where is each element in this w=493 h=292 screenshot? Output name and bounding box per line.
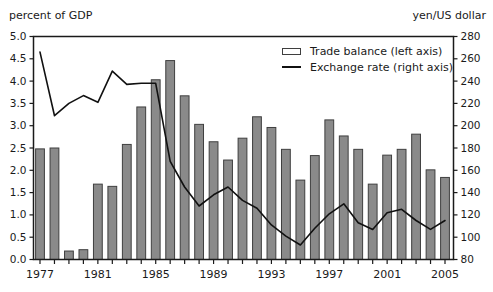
trade-balance-bar-2001 — [383, 155, 392, 259]
trade-balance-bar-1996 — [310, 156, 319, 260]
legend-row-exchange-rate: Exchange rate (right axis) — [282, 60, 453, 74]
x-axis-label-2005: 2005 — [431, 268, 459, 281]
trade-balance-bar-1998 — [339, 136, 348, 260]
right-axis-tick-label: 80 — [461, 253, 474, 265]
trade-balance-bar-1993 — [267, 127, 276, 259]
right-axis-tick-label: 160 — [461, 164, 481, 176]
right-axis-tick-label: 140 — [461, 186, 481, 198]
right-axis-tick-label: 120 — [461, 208, 481, 220]
trade-balance-bar-1981 — [93, 184, 102, 259]
trade-balance-bar-1988 — [195, 124, 204, 259]
x-axis-label-1993: 1993 — [257, 268, 285, 281]
left-axis-tick-label: 3.5 — [10, 97, 27, 109]
trade-balance-bar-1987 — [180, 96, 189, 260]
trade-balance-bar-1980 — [79, 250, 88, 260]
trade-balance-bar-1995 — [296, 180, 305, 259]
trade-balance-bar-1977 — [36, 149, 45, 260]
trade-balance-bar-1989 — [209, 142, 218, 260]
x-axis-label-1989: 1989 — [200, 268, 228, 281]
left-axis-tick-label: 2.0 — [10, 164, 27, 176]
x-axis-label-2001: 2001 — [373, 268, 401, 281]
trade-balance-bar-1978 — [50, 148, 59, 260]
chart: percent of GDP yen/US dollar 0.00.51.01.… — [0, 0, 493, 292]
legend-row-trade-balance: Trade balance (left axis) — [282, 44, 453, 58]
trade-balance-bar-2005 — [441, 177, 450, 259]
left-axis-tick-label: 4.0 — [10, 75, 27, 87]
left-axis-tick-label: 3.0 — [10, 119, 27, 131]
left-axis-tick-label: 1.5 — [10, 186, 27, 198]
x-axis-label-1981: 1981 — [84, 268, 112, 281]
trade-balance-bar-1997 — [325, 120, 334, 260]
trade-balance-bar-2003 — [412, 134, 421, 259]
x-axis-label-1977: 1977 — [26, 268, 54, 281]
trade-balance-bar-1999 — [354, 149, 363, 259]
trade-balance-bar-2000 — [368, 184, 377, 259]
trade-balance-bar-1979 — [65, 251, 74, 259]
legend: Trade balance (left axis) Exchange rate … — [282, 44, 453, 76]
trade-balance-bar-1990 — [224, 160, 233, 259]
right-axis-tick-label: 280 — [461, 30, 481, 42]
trade-balance-bar-2002 — [397, 149, 406, 259]
trade-balance-bar-1992 — [253, 117, 262, 260]
left-axis-tick-label: 0.0 — [10, 253, 27, 265]
legend-label-exchange-rate: Exchange rate (right axis) — [310, 61, 453, 74]
right-axis-tick-label: 260 — [461, 52, 481, 64]
trade-balance-bar-1994 — [281, 149, 290, 259]
right-axis-tick-label: 240 — [461, 75, 481, 87]
trade-balance-bar-1982 — [108, 186, 117, 259]
legend-label-trade-balance: Trade balance (left axis) — [310, 45, 442, 58]
left-axis-tick-label: 1.0 — [10, 208, 27, 220]
left-axis-tick-label: 4.5 — [10, 52, 27, 64]
trade-balance-bar-1985 — [151, 80, 160, 260]
right-axis-tick-label: 200 — [461, 119, 481, 131]
x-axis-label-1997: 1997 — [315, 268, 343, 281]
right-axis-tick-label: 180 — [461, 142, 481, 154]
trade-balance-bar-1991 — [238, 138, 247, 259]
x-axis-label-1985: 1985 — [142, 268, 170, 281]
trade-balance-swatch-icon — [282, 48, 301, 55]
trade-balance-bar-1983 — [122, 144, 131, 259]
exchange-rate-swatch-icon — [282, 66, 301, 68]
left-axis-tick-label: 0.5 — [10, 231, 27, 243]
left-axis-tick-label: 5.0 — [10, 30, 27, 42]
right-axis-tick-label: 220 — [461, 97, 481, 109]
trade-balance-bar-1984 — [137, 107, 146, 260]
trade-balance-bar-2004 — [426, 170, 435, 260]
right-axis-tick-label: 100 — [461, 231, 481, 243]
left-axis-tick-label: 2.5 — [10, 142, 27, 154]
